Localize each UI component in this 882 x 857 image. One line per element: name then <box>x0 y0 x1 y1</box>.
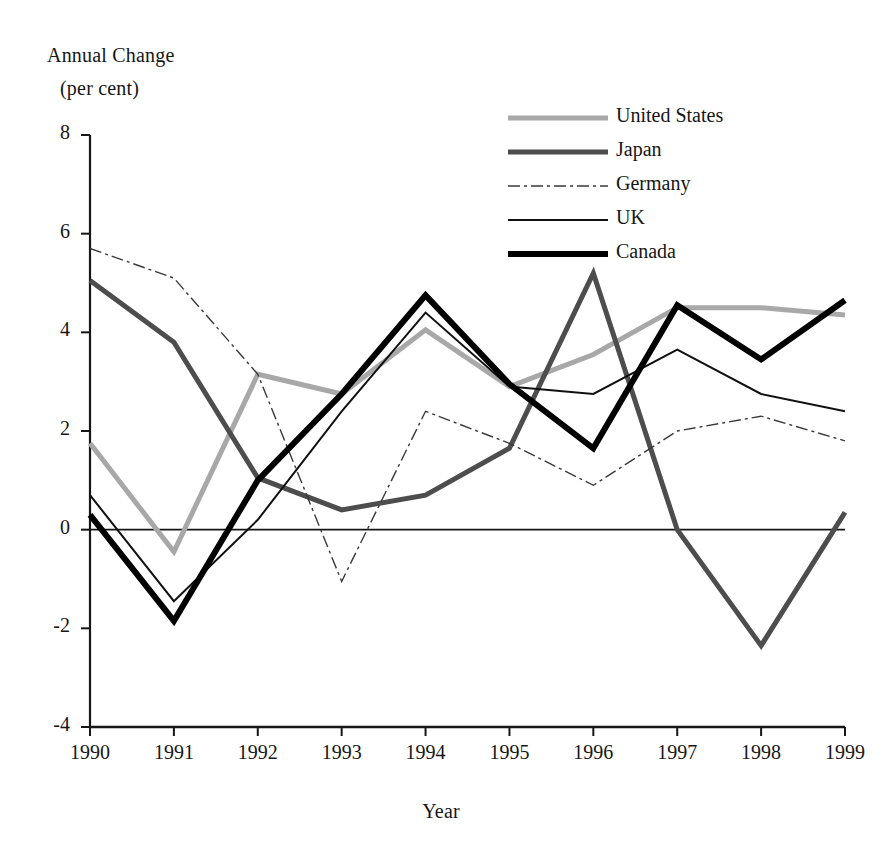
x-axis-title: Year <box>0 800 882 823</box>
y-axis-tick-label: 8 <box>26 121 70 144</box>
legend-label-uk: UK <box>616 206 645 229</box>
legend-label-united-states: United States <box>616 104 723 127</box>
y-axis-tick-label: -4 <box>26 713 70 736</box>
chart-figure: Annual Change (per cent) 86420-2-4 19901… <box>0 0 882 857</box>
y-axis-tick-label: 4 <box>26 318 70 341</box>
data-series <box>90 248 845 645</box>
legend-label-germany: Germany <box>616 172 690 195</box>
series-line-germany <box>90 248 845 581</box>
y-axis-tick-label: 2 <box>26 417 70 440</box>
legend-label-canada: Canada <box>616 240 676 263</box>
series-line-canada <box>90 295 845 621</box>
x-axis-tick-label: 1990 <box>47 741 133 764</box>
x-axis-tick-label: 1992 <box>215 741 301 764</box>
x-axis-tick-label: 1998 <box>718 741 804 764</box>
x-axis-tick-label: 1993 <box>299 741 385 764</box>
y-axis-tick-label: -2 <box>26 614 70 637</box>
legend-label-japan: Japan <box>616 138 662 161</box>
x-axis-tick-label: 1991 <box>131 741 217 764</box>
x-axis-tick-label: 1996 <box>550 741 636 764</box>
x-axis-tick-label: 1999 <box>802 741 882 764</box>
x-axis-tick-label: 1997 <box>634 741 720 764</box>
x-axis-tick-label: 1995 <box>466 741 552 764</box>
axes <box>81 135 845 736</box>
plot-area <box>0 0 882 857</box>
x-axis-tick-label: 1994 <box>383 741 469 764</box>
series-line-japan <box>90 273 845 645</box>
legend-swatches <box>508 118 608 254</box>
series-line-united-states <box>90 308 845 552</box>
y-axis-tick-label: 6 <box>26 220 70 243</box>
y-axis-tick-label: 0 <box>26 516 70 539</box>
